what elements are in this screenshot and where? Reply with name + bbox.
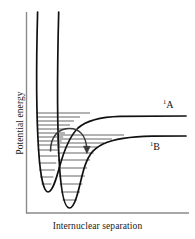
- potential-curve-state-b: [58, 12, 186, 208]
- y-axis-title: Potential energy: [15, 48, 25, 198]
- state-a-term: A: [166, 99, 173, 110]
- x-axis-title: Internuclear separation: [0, 221, 195, 231]
- potential-energy-diagram: 1A 1B Potential energy Internuclear sepa…: [0, 0, 195, 239]
- state-label-a: 1A: [163, 99, 173, 110]
- plot-canvas: [0, 0, 195, 239]
- state-b-term: B: [153, 141, 160, 152]
- state-label-b: 1B: [150, 141, 160, 152]
